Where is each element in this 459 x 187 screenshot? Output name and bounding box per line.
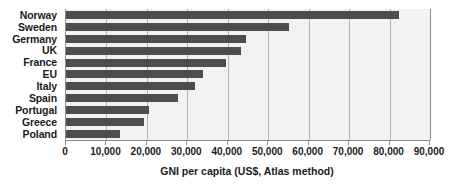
x-tick-label: 30,000 — [171, 145, 202, 159]
bar — [66, 106, 149, 114]
x-tick-label: 10,000 — [90, 145, 121, 159]
bar — [66, 47, 241, 55]
category-label: EU — [0, 69, 61, 81]
bar-row — [66, 80, 430, 92]
bars-layer — [66, 9, 430, 140]
bar — [66, 59, 226, 67]
category-label: Greece — [0, 116, 61, 128]
bar — [66, 23, 289, 31]
bar — [66, 118, 144, 126]
plot-area — [65, 9, 430, 140]
category-axis: NorwaySwedenGermanyUKFranceEUItalySpainP… — [0, 9, 61, 140]
bar — [66, 94, 178, 102]
x-tick-label: 70,000 — [333, 145, 364, 159]
bar — [66, 130, 120, 138]
x-tick-label: 80,000 — [373, 145, 404, 159]
category-label: Poland — [0, 128, 61, 140]
bar-row — [66, 21, 430, 33]
category-label: Portugal — [0, 104, 61, 116]
x-tick-label: 50,000 — [252, 145, 283, 159]
x-tick-label: 90,000 — [414, 145, 445, 159]
bar-row — [66, 69, 430, 81]
bar-row — [66, 9, 430, 21]
category-label: Germany — [0, 33, 61, 45]
bar — [66, 70, 203, 78]
category-label: France — [0, 57, 61, 69]
bar — [66, 35, 246, 43]
x-axis-title: GNI per capita (US$, Atlas method) — [65, 165, 429, 177]
bar-row — [66, 116, 430, 128]
bar-row — [66, 104, 430, 116]
x-tick-label: 0 — [62, 145, 68, 159]
category-label: Italy — [0, 80, 61, 92]
bar-row — [66, 92, 430, 104]
bar — [66, 11, 399, 19]
category-label: Norway — [0, 9, 61, 21]
category-label: Sweden — [0, 21, 61, 33]
bar-row — [66, 33, 430, 45]
category-label: Spain — [0, 92, 61, 104]
bar-chart: NorwaySwedenGermanyUKFranceEUItalySpainP… — [0, 0, 459, 187]
category-label: UK — [0, 45, 61, 57]
x-tick-label: 40,000 — [211, 145, 242, 159]
bar-row — [66, 45, 430, 57]
bar-row — [66, 128, 430, 140]
x-tick-label: 60,000 — [292, 145, 323, 159]
bar — [66, 82, 195, 90]
bar-row — [66, 57, 430, 69]
x-axis-tick-labels: 010,00020,00030,00040,00050,00060,00070,… — [65, 145, 429, 159]
gridline — [430, 9, 431, 140]
x-tick-label: 20,000 — [131, 145, 162, 159]
